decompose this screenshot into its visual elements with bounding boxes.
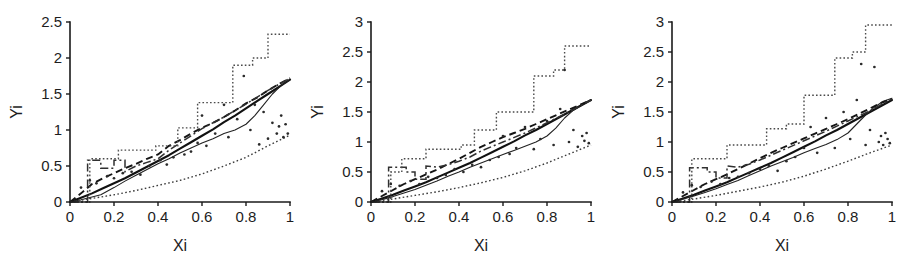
scatter-point [748, 172, 751, 175]
scatter-point [737, 175, 740, 178]
axes: 00.511.522.5300.20.40.60.81XiYi [610, 13, 896, 254]
x-tick-label: 0.8 [838, 208, 859, 225]
scatter-point [869, 129, 872, 132]
x-tick-label: 0.6 [794, 208, 815, 225]
scatter-point [849, 138, 852, 141]
y-axis-title: Yi [8, 105, 25, 119]
x-tick-label: 0.2 [104, 208, 125, 225]
series-empirical-solid-thin [371, 100, 591, 202]
series-upper-dotted-step [672, 25, 892, 202]
scatter-point [825, 117, 828, 120]
y-tick-label: 1 [54, 121, 62, 138]
axes: 00.511.522.500.20.40.60.81XiYi [8, 13, 294, 254]
scatter-point [572, 129, 575, 132]
x-axis-title: Xi [173, 237, 187, 254]
y-tick-label: 3 [656, 13, 664, 30]
scatter-point [524, 126, 527, 129]
scatter-point [444, 174, 447, 177]
scatter-point [864, 144, 867, 147]
scatter-point [427, 175, 430, 178]
scatter-point [552, 144, 555, 147]
scatter-point [381, 190, 384, 193]
scatter-point [880, 135, 883, 138]
y-tick-label: 0.5 [643, 163, 664, 180]
chart-panel-2: 00.511.522.5300.20.40.60.81XiYi [301, 0, 603, 264]
scatter-point [165, 163, 168, 166]
series-estimate-dashed [672, 99, 892, 202]
x-tick-label: 0 [367, 208, 375, 225]
series-estimate-dashed [371, 100, 591, 202]
x-tick-label: 0.2 [706, 208, 727, 225]
scatter-point [759, 168, 762, 171]
scatter-point [282, 136, 285, 139]
scatter-point [242, 75, 245, 78]
scatter-point [488, 159, 491, 162]
scatter-point [563, 69, 566, 72]
scatter-point [271, 121, 274, 124]
scatter-point [508, 153, 511, 156]
y-tick-label: 0 [656, 193, 664, 210]
y-tick-label: 2.5 [342, 43, 363, 60]
scatter-point [436, 177, 439, 180]
scatter-point [106, 175, 109, 178]
scatter-point [88, 179, 91, 182]
y-tick-label: 3 [355, 13, 363, 30]
y-tick-label: 0.5 [342, 163, 363, 180]
scatter-point [80, 186, 83, 189]
scatter-point [767, 165, 770, 168]
x-tick-label: 0.8 [537, 208, 558, 225]
scatter-point [882, 144, 885, 147]
y-tick-label: 0 [355, 193, 363, 210]
scatter-point [860, 63, 863, 66]
scatter-point [223, 103, 226, 106]
scatter-point [682, 191, 685, 194]
scatter-point [262, 111, 265, 114]
scatter-point [258, 143, 261, 146]
scatter-point [719, 183, 722, 186]
scatter-point [816, 151, 819, 154]
y-tick-label: 2 [54, 49, 62, 66]
x-tick-label: 1 [286, 208, 294, 225]
series-upper-dotted-step [371, 46, 591, 202]
scatter-point [190, 150, 193, 153]
x-axis-title: Xi [775, 237, 789, 254]
scatter-point [710, 180, 713, 183]
series-reference-solid-thick [371, 100, 591, 202]
y-tick-label: 2.5 [643, 43, 664, 60]
x-tick-label: 0.2 [405, 208, 426, 225]
scatter-point [559, 108, 562, 111]
scatter-point [855, 99, 858, 102]
scatter-point [497, 156, 500, 159]
scatter-point [833, 147, 836, 150]
x-tick-label: 0 [668, 208, 676, 225]
scatter-point [809, 126, 812, 129]
plot-area [371, 46, 591, 202]
scatter-point [148, 165, 151, 168]
series-empirical-solid-thin [672, 98, 892, 202]
axes: 00.511.522.5300.20.40.60.81XiYi [309, 13, 595, 254]
x-tick-label: 0 [66, 208, 74, 225]
scatter-point [515, 147, 518, 150]
series-estimate-dashdot-step [371, 100, 591, 202]
scatter-point [113, 177, 116, 180]
y-tick-label: 1.5 [342, 103, 363, 120]
scatter-point [502, 135, 505, 138]
scatter-point [576, 145, 579, 148]
scatter-point [267, 137, 270, 140]
scatter-point [581, 135, 584, 138]
scatter-point [532, 148, 535, 151]
y-tick-label: 1.5 [643, 103, 664, 120]
series-reference-solid-thick [672, 100, 892, 202]
scatter-sample-points [80, 75, 290, 189]
scatter-point [183, 153, 186, 156]
scatter-point [453, 168, 456, 171]
y-tick-label: 1 [656, 133, 664, 150]
y-tick-label: 2.5 [41, 13, 62, 30]
scatter-point [776, 169, 779, 172]
y-tick-label: 1 [355, 133, 363, 150]
scatter-point [877, 141, 880, 144]
scatter-point [585, 132, 588, 135]
scatter-point [159, 159, 162, 162]
series-lower-dotted [672, 145, 892, 202]
scatter-point [249, 129, 252, 132]
